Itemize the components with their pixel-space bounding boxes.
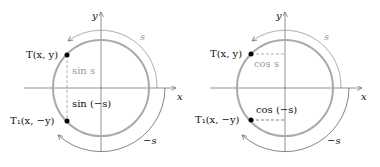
point-t1 <box>249 118 254 123</box>
point-t <box>249 52 254 57</box>
sin-s-label: sin s <box>72 65 95 76</box>
arc-s-label: s <box>324 31 329 42</box>
x-label: x <box>177 91 183 102</box>
arc-s-label: s <box>140 31 145 42</box>
cos-s-label: cos s <box>254 58 279 69</box>
point-t-label: T(x, y) <box>26 49 58 60</box>
cos-neg-s-label: cos (−s) <box>256 104 297 115</box>
point-t-label: T(x, y) <box>210 48 242 59</box>
point-t <box>65 53 70 58</box>
x-label: x <box>361 91 367 102</box>
right-diagram: x y s −s T(x, y) T₁(x, −y) cos s cos (−s… <box>195 10 367 152</box>
y-label: y <box>91 10 98 21</box>
left-diagram: x y s −s T(x, y) T₁(x, −y) sin s sin (−s… <box>10 10 183 152</box>
y-label: y <box>275 10 282 21</box>
point-t1-label: T₁(x, −y) <box>10 115 55 126</box>
point-t1 <box>65 119 70 124</box>
arc-neg-s-label: −s <box>143 135 157 146</box>
figure: x y s −s T(x, y) T₁(x, −y) sin s sin (−s… <box>0 0 380 167</box>
arc-neg-s-label: −s <box>327 135 341 146</box>
sin-neg-s-label: sin (−s) <box>72 98 111 109</box>
point-t1-label: T₁(x, −y) <box>195 114 240 125</box>
